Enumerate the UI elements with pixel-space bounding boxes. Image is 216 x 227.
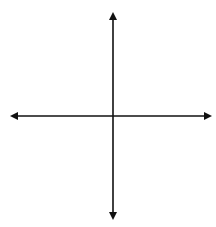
y-axis-up-arrow-icon [109,12,117,20]
y-axis-down-arrow-icon [109,212,117,220]
x-axis-left-arrow-icon [10,112,18,120]
axes [10,12,212,220]
x-axis-right-arrow-icon [204,112,212,120]
coordinate-plane [0,0,216,227]
